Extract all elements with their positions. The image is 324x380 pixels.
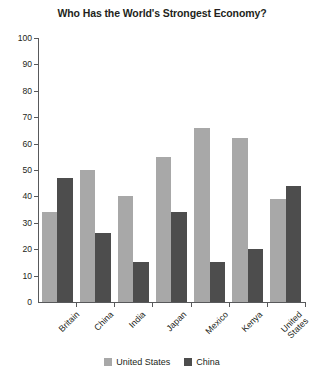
x-axis-tick: [191, 302, 192, 307]
x-axis-tick: [114, 302, 115, 307]
y-axis-tick-label: 0: [6, 298, 32, 307]
y-axis-tick: [34, 196, 38, 197]
x-axis-label-india: India: [128, 310, 148, 330]
x-axis-label-mexico: Mexico: [204, 310, 230, 336]
x-axis-tick: [305, 302, 306, 307]
bar: [210, 262, 226, 302]
y-axis-tick: [34, 38, 38, 39]
x-axis-label-kenya: Kenya: [240, 310, 264, 334]
bar: [95, 233, 111, 302]
chart-legend: United States China: [0, 357, 324, 367]
y-axis-tick-label: 100: [6, 34, 32, 43]
y-axis-tick-label: 90: [6, 60, 32, 69]
bar: [232, 138, 248, 302]
x-axis-tick: [76, 302, 77, 307]
bar-group: [156, 38, 187, 302]
x-axis-label-japan: Japan: [165, 310, 188, 333]
y-axis-tick: [34, 144, 38, 145]
y-axis-tick-label: 60: [6, 140, 32, 149]
legend-swatch-icon: [184, 358, 192, 366]
y-axis-tick-label: 30: [6, 219, 32, 228]
bar: [286, 186, 302, 302]
bar: [171, 212, 187, 302]
y-axis-tick: [34, 276, 38, 277]
x-axis-tick: [267, 302, 268, 307]
y-axis-tick: [34, 170, 38, 171]
y-axis-tick: [34, 117, 38, 118]
x-axis-label-britain: Britain: [57, 310, 81, 334]
y-axis-tick: [34, 91, 38, 92]
y-axis-tick: [34, 223, 38, 224]
bar: [156, 157, 172, 302]
x-axis-line: [38, 302, 305, 303]
x-axis-label-united-states: UnitedStates: [279, 310, 310, 341]
legend-item-united-states: United States: [104, 357, 170, 367]
legend-label: China: [196, 357, 220, 367]
bar: [80, 170, 96, 302]
bar-group: [80, 38, 111, 302]
x-axis-tick: [152, 302, 153, 307]
legend-swatch-icon: [104, 358, 112, 366]
bar-chart: Who Has the World's Strongest Economy? 1…: [0, 0, 324, 380]
chart-title: Who Has the World's Strongest Economy?: [0, 7, 324, 19]
y-axis-tick-label: 10: [6, 272, 32, 281]
y-axis-tick-label: 50: [6, 166, 32, 175]
bar: [133, 262, 149, 302]
bar: [57, 178, 73, 302]
bar: [270, 199, 286, 302]
y-axis-tick-label: 70: [6, 113, 32, 122]
y-axis-tick-label: 40: [6, 192, 32, 201]
bar: [42, 212, 58, 302]
y-axis-tick: [34, 249, 38, 250]
bar: [118, 196, 134, 302]
x-axis-label-china: China: [93, 310, 116, 333]
plot-area: [38, 38, 305, 302]
bar-group: [42, 38, 73, 302]
y-axis-tick: [34, 64, 38, 65]
y-axis-tick-label: 80: [6, 87, 32, 96]
legend-item-china: China: [184, 357, 220, 367]
legend-label: United States: [116, 357, 170, 367]
bar: [194, 128, 210, 302]
bar-group: [194, 38, 225, 302]
bar-group: [232, 38, 263, 302]
bar-group: [270, 38, 301, 302]
bar-group: [118, 38, 149, 302]
y-axis-line: [38, 38, 39, 303]
x-axis-tick: [229, 302, 230, 307]
y-axis-tick-label: 20: [6, 245, 32, 254]
bar: [248, 249, 264, 302]
